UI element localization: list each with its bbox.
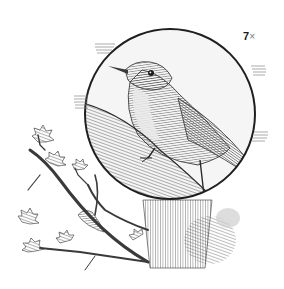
magnification-label: 7× (243, 30, 255, 42)
tree-trunk (143, 200, 240, 268)
small-bird (78, 211, 104, 232)
magnifier-circle (70, 29, 268, 210)
magnification-symbol: × (249, 31, 255, 42)
bird-illustration (0, 0, 284, 289)
